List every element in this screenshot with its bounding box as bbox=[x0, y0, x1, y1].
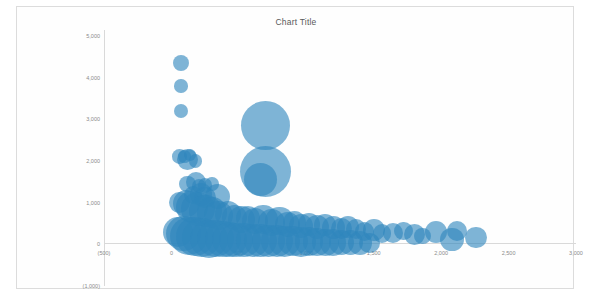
data-point-bubble bbox=[189, 154, 202, 167]
y-axis-tick-label: 2,000 bbox=[86, 158, 100, 164]
y-axis-tick-label: 5,000 bbox=[86, 33, 100, 39]
bubble-chart-screenshot: Chart Title 5,0004,0003,0002,0001,0000(1… bbox=[0, 0, 592, 297]
y-axis-tick-label: (1,000) bbox=[83, 283, 100, 289]
data-point-bubble bbox=[244, 163, 277, 196]
data-point-bubble bbox=[173, 55, 189, 71]
data-point-bubble bbox=[174, 79, 187, 92]
y-axis-tick-label: 0 bbox=[97, 241, 100, 247]
data-point-bubble bbox=[241, 101, 290, 150]
y-axis-tick-label: 3,000 bbox=[86, 116, 100, 122]
y-axis-tick-label: 4,000 bbox=[86, 75, 100, 81]
y-axis-tick-label: 1,000 bbox=[86, 200, 100, 206]
